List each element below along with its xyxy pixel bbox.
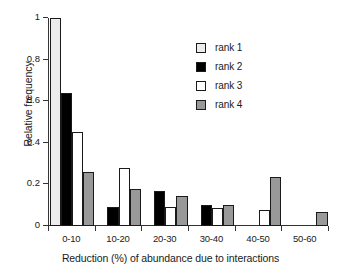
legend-item: rank 1: [196, 38, 242, 57]
x-tick: [188, 226, 189, 231]
legend-swatch: [196, 81, 206, 91]
x-tick-label: 0-10: [62, 233, 80, 244]
legend-swatch: [196, 62, 206, 72]
legend-swatch: [196, 43, 206, 53]
legend-label: rank 3: [215, 80, 242, 91]
bar: [72, 132, 83, 226]
x-tick: [328, 226, 329, 231]
x-tick-label: 10-20: [106, 233, 129, 244]
bar: [212, 208, 223, 226]
bar: [201, 205, 212, 226]
bar: [107, 207, 118, 226]
legend-swatch: [196, 100, 206, 110]
y-tick-label: 0.8: [27, 52, 40, 65]
y-tick-label: 0.4: [27, 135, 40, 148]
y-tick-label: 0.6: [27, 93, 40, 106]
bar: [119, 168, 130, 226]
bar: [50, 18, 61, 226]
legend-label: rank 4: [215, 99, 242, 110]
bar: [259, 210, 270, 226]
x-tick: [281, 226, 282, 231]
x-tick: [141, 226, 142, 231]
x-axis-title: Reduction (%) of abundance due to intera…: [0, 252, 341, 264]
legend-item: rank 2: [196, 57, 242, 76]
bar: [270, 177, 281, 226]
legend-label: rank 2: [215, 61, 242, 72]
bar: [83, 172, 94, 226]
y-tick: 0.2: [43, 183, 48, 184]
plot-area: 00.20.40.60.81 0-1010-2020-3030-4040-505…: [48, 18, 328, 226]
x-tick-label: 50-60: [293, 233, 316, 244]
bar: [165, 207, 176, 226]
x-tick: [48, 226, 49, 231]
x-tick-label: 40-50: [246, 233, 269, 244]
bar: [130, 189, 141, 226]
bar-chart-figure: Relative frequency 00.20.40.60.81 0-1010…: [0, 0, 341, 277]
y-tick-label: 0.2: [27, 176, 40, 189]
y-tick: 0.6: [43, 100, 48, 101]
legend: rank 1rank 2rank 3rank 4: [196, 38, 242, 114]
y-tick-label: 1: [35, 10, 40, 23]
y-tick: 0.4: [43, 142, 48, 143]
legend-item: rank 3: [196, 76, 242, 95]
bar: [223, 205, 234, 226]
x-tick-label: 20-30: [153, 233, 176, 244]
y-tick: 0.8: [43, 59, 48, 60]
bar: [176, 196, 187, 226]
y-tick-label: 0: [35, 218, 40, 231]
bar: [61, 93, 72, 226]
bar: [154, 191, 165, 226]
x-tick: [235, 226, 236, 231]
x-tick-label: 30-40: [200, 233, 223, 244]
x-tick: [95, 226, 96, 231]
y-tick: 1: [43, 17, 48, 18]
legend-item: rank 4: [196, 95, 242, 114]
legend-label: rank 1: [215, 42, 242, 53]
bar: [316, 212, 327, 226]
